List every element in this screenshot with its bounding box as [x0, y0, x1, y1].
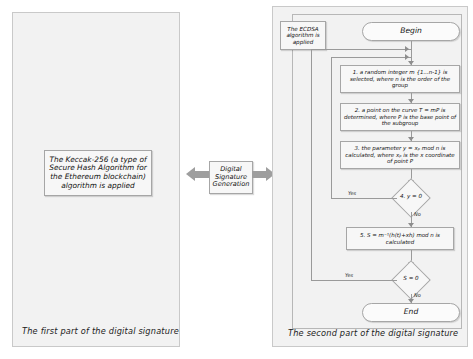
decision-1-no-label: No	[414, 211, 421, 217]
arrowhead-outer-loop	[405, 46, 409, 52]
flow-step-5: 5. S = m⁻¹(h(t)+xh) mod n is calculated	[346, 227, 454, 250]
flowchart-frame	[292, 14, 462, 329]
arrow-left-icon	[186, 167, 195, 181]
arrowhead-inner-loop	[405, 54, 409, 60]
flow-decision-s-equals-zero: S = 0	[397, 266, 425, 294]
flow-end-node: End	[362, 303, 460, 322]
edge-inner-loop-top	[331, 57, 411, 58]
right-panel-caption: The second part of the digital signature	[288, 328, 458, 338]
decision-1-yes-label: Yes	[348, 190, 356, 196]
left-panel-caption: The first part of the digital signature	[22, 326, 179, 336]
edge-decision2-yes	[311, 280, 397, 281]
keccak-note-box: The Keccak-256 (a type of Secure Hash Al…	[44, 150, 152, 196]
digital-signature-generation-label: Digital Signature Generation	[209, 161, 253, 194]
edge-inner-loop-vertical	[331, 57, 332, 198]
edge-decision1-yes	[331, 198, 397, 199]
flow-step-3: 3. the parameter y = xₚ mod n is calcula…	[340, 141, 460, 169]
ecdsa-note-box: The ECDSA algorithm is applied	[280, 21, 326, 50]
edge-outer-loop-top	[311, 49, 411, 50]
flow-decision-y-equals-zero: 4. y = 0	[397, 184, 425, 212]
flow-step-1: 1. a random integer m {1...n-1} is selec…	[340, 65, 460, 93]
flow-step-2: 2. a point on the curve T = mP is determ…	[340, 103, 460, 131]
edge-outer-loop-vertical	[311, 49, 312, 280]
right-connector	[252, 171, 266, 178]
decision-2-no-label: No	[414, 292, 421, 298]
figure-canvas: The Keccak-256 (a type of Secure Hash Al…	[0, 0, 473, 359]
flow-start-node: Begin	[362, 22, 460, 41]
decision-2-yes-label: Yes	[345, 272, 353, 278]
